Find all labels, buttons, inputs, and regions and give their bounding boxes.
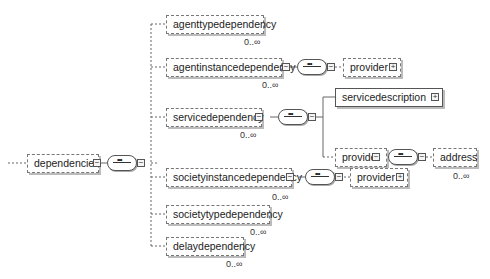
element-label: provider <box>350 61 388 73</box>
collapse-icon[interactable]: − <box>286 173 294 181</box>
collapse-icon[interactable]: − <box>137 159 145 167</box>
sequence-compositor[interactable] <box>107 155 137 171</box>
sequence-compositor[interactable] <box>297 59 327 75</box>
societytypedependency-element[interactable]: societytypedependency <box>166 205 270 224</box>
collapse-icon[interactable]: − <box>282 63 290 71</box>
element-label: address <box>440 151 477 163</box>
element-label: agenttypedependency <box>173 18 276 30</box>
collapse-icon[interactable]: − <box>418 153 426 161</box>
cardinality-label: 0..∞ <box>262 80 278 90</box>
sequence-compositor[interactable] <box>305 169 335 185</box>
societyinstancedependency-element[interactable]: societyinstancedependency <box>166 168 292 187</box>
element-label: servicedependency <box>173 111 263 123</box>
dependencies-element[interactable]: dependencies <box>27 154 99 173</box>
address-element[interactable]: address <box>433 148 477 167</box>
agentinstancedependency-element[interactable]: agentinstancedependency <box>166 58 282 77</box>
cardinality-label: 0..∞ <box>272 192 288 202</box>
sequence-compositor[interactable] <box>278 109 308 125</box>
delaydependency-element[interactable]: delaydependency <box>166 237 244 256</box>
element-label: provider <box>357 171 395 183</box>
schema-diagram: dependencies − − agenttypedependency 0..… <box>0 0 490 279</box>
servicedependency-element[interactable]: servicedependency <box>166 108 262 127</box>
servicedescription-element[interactable]: servicedescription <box>335 88 443 107</box>
element-label: delaydependency <box>173 240 255 252</box>
cardinality-label: 0..∞ <box>226 259 242 269</box>
collapse-icon[interactable]: − <box>308 113 316 121</box>
collapse-icon[interactable]: − <box>93 159 101 167</box>
expand-icon[interactable]: + <box>389 63 397 71</box>
cardinality-label: 0..∞ <box>244 37 260 47</box>
expand-icon[interactable]: + <box>396 173 404 181</box>
collapse-icon[interactable]: − <box>255 113 263 121</box>
element-label: societytypedependency <box>173 208 283 220</box>
element-label: societyinstancedependency <box>173 171 302 183</box>
agenttypedependency-element[interactable]: agenttypedependency <box>166 15 264 34</box>
collapse-icon[interactable]: − <box>335 173 343 181</box>
element-label: dependencies <box>34 157 99 169</box>
cardinality-label: 0..∞ <box>240 130 256 140</box>
sequence-compositor[interactable] <box>388 149 418 165</box>
cardinality-label: 0..∞ <box>250 227 266 237</box>
collapse-icon[interactable]: − <box>327 63 335 71</box>
cardinality-label: 0..∞ <box>453 171 469 181</box>
element-label: servicedescription <box>342 91 426 103</box>
collapse-icon[interactable]: − <box>372 153 380 161</box>
element-label: agentinstancedependency <box>173 61 296 73</box>
expand-icon[interactable]: + <box>431 93 439 101</box>
